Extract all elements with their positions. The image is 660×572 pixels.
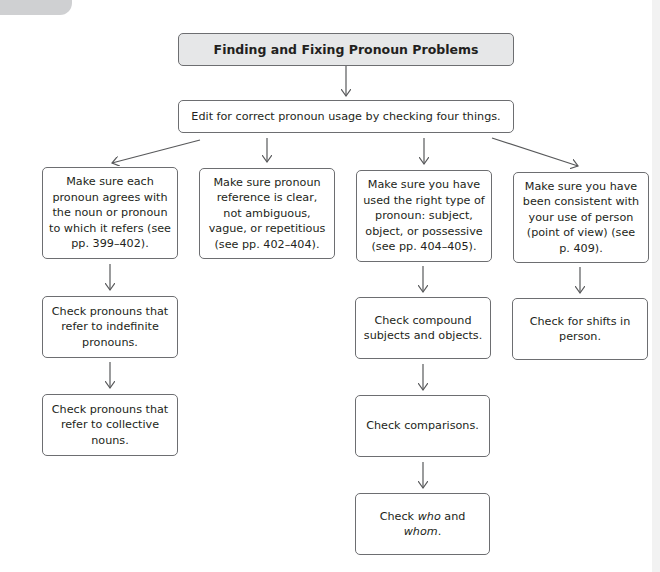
check-text: Check who and whom.	[362, 509, 483, 540]
text-middle: and	[441, 510, 466, 523]
connector-arrows	[0, 0, 660, 572]
branch-box-reference: Make sure pronoun reference is clear, no…	[199, 168, 335, 259]
check-box-indefinite: Check pronouns that refer to indefinite …	[42, 296, 178, 358]
arrow-root-to-branch-4	[492, 138, 578, 166]
diagram-title-box: Finding and Fixing Pronoun Problems	[178, 33, 514, 66]
text-suffix: .	[438, 525, 442, 538]
root-text: Edit for correct pronoun usage by checki…	[191, 109, 500, 125]
branch-box-consistency: Make sure you have been consistent with …	[513, 172, 649, 263]
check-box-shifts: Check for shifts in person.	[512, 298, 648, 360]
check-text: Check pronouns that refer to indefinite …	[49, 304, 171, 351]
check-text: Check comparisons.	[366, 418, 479, 434]
text-prefix: Check	[380, 510, 418, 523]
check-text: Check for shifts in person.	[519, 314, 641, 345]
text-italic-who: who	[418, 510, 441, 523]
arrow-root-to-branch-1	[112, 140, 200, 163]
check-box-collective: Check pronouns that refer to collective …	[42, 394, 178, 456]
check-box-compound: Check compound subjects and objects.	[355, 297, 491, 359]
branch-text: Make sure you have been consistent with …	[520, 179, 642, 257]
root-box: Edit for correct pronoun usage by checki…	[178, 100, 514, 133]
branch-box-agreement: Make sure each pronoun agrees with the n…	[42, 167, 178, 259]
check-text: Check pronouns that refer to collective …	[49, 402, 171, 449]
branch-text: Make sure each pronoun agrees with the n…	[49, 174, 171, 252]
branch-text: Make sure you have used the right type o…	[363, 177, 485, 255]
diagram-title: Finding and Fixing Pronoun Problems	[214, 42, 479, 58]
text-italic-whom: whom	[404, 525, 438, 538]
check-text: Check compound subjects and objects.	[362, 313, 484, 344]
branch-text: Make sure pronoun reference is clear, no…	[206, 175, 328, 253]
branch-box-pronoun-type: Make sure you have used the right type o…	[356, 170, 492, 262]
check-box-who-whom: Check who and whom.	[355, 493, 490, 555]
check-box-comparisons: Check comparisons.	[355, 395, 490, 457]
